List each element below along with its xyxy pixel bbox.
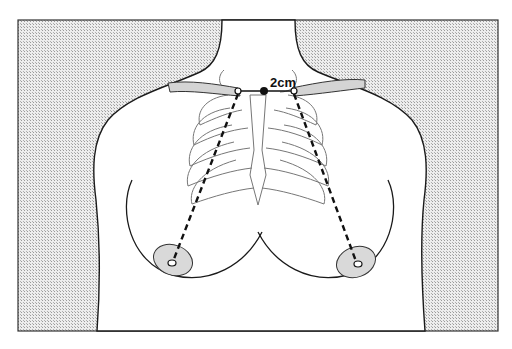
right-nipple	[354, 261, 362, 267]
distance-label: 2cm	[270, 75, 296, 90]
chest-diagram: 2cm	[0, 0, 512, 349]
suprasternal-notch-dot	[260, 87, 268, 95]
left-nipple	[168, 260, 176, 266]
left-midclavicular-point	[235, 88, 241, 94]
